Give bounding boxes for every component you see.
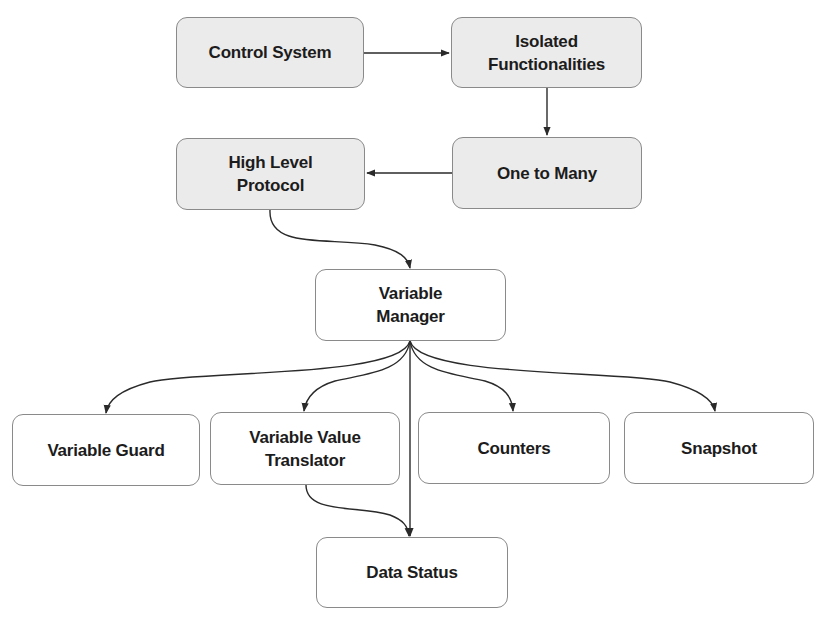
edge-manager-to-counters (410, 341, 513, 411)
node-control-system[interactable]: Control System (176, 17, 364, 88)
node-label: Snapshot (681, 437, 757, 460)
edge-manager-to-snapshot (410, 341, 715, 411)
edge-manager-to-translator (304, 341, 410, 411)
edge-protocol-to-manager (270, 210, 410, 268)
node-counters[interactable]: Counters (418, 412, 610, 484)
node-label: High Level Protocol (229, 151, 313, 197)
node-label: Data Status (366, 561, 457, 584)
edge-manager-to-guard (106, 341, 410, 413)
node-variable-manager[interactable]: Variable Manager (315, 269, 506, 341)
node-label: Counters (477, 437, 550, 460)
node-isolated-functionalities[interactable]: Isolated Functionalities (451, 17, 642, 88)
node-one-to-many[interactable]: One to Many (452, 137, 642, 209)
node-variable-value-translator[interactable]: Variable Value Translator (210, 412, 400, 485)
node-label: Variable Manager (376, 282, 445, 328)
edge-translator-to-data-status (306, 485, 409, 536)
node-data-status[interactable]: Data Status (316, 537, 508, 608)
node-snapshot[interactable]: Snapshot (624, 412, 814, 484)
node-label: Isolated Functionalities (488, 30, 605, 76)
node-variable-guard[interactable]: Variable Guard (12, 414, 200, 486)
node-label: Control System (209, 41, 332, 64)
node-label: One to Many (497, 162, 597, 185)
flowchart-diagram: Control System Isolated Functionalities … (0, 0, 823, 621)
node-high-level-protocol[interactable]: High Level Protocol (176, 138, 365, 210)
node-label: Variable Guard (47, 439, 164, 462)
node-label: Variable Value Translator (249, 426, 361, 472)
